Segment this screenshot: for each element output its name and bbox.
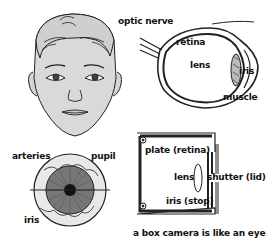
face-illustration xyxy=(29,14,122,136)
label-lens-eye: lens xyxy=(190,60,210,70)
label-plate-retina: plate (retina) xyxy=(145,145,210,155)
label-lens-camera: lens xyxy=(174,172,194,182)
label-pupil: pupil xyxy=(91,151,115,161)
eye-front-illustration xyxy=(30,154,110,226)
label-iris-stop: iris (stop) xyxy=(166,196,213,206)
label-muscle: muscle xyxy=(223,92,257,102)
label-optic-nerve: optic nerve xyxy=(118,16,173,26)
caption-box-camera: a box camera is like an eye xyxy=(133,228,265,238)
label-iris-front: iris xyxy=(24,215,39,225)
label-retina: retina xyxy=(176,37,205,47)
label-shutter-lid: shutter (lid) xyxy=(207,172,266,182)
eye-diagram: optic nerve retina lens iris muscle arte… xyxy=(0,0,266,244)
label-arteries: arteries xyxy=(12,151,50,161)
diagram-artwork xyxy=(0,0,266,244)
label-iris-eye: iris xyxy=(239,66,254,76)
